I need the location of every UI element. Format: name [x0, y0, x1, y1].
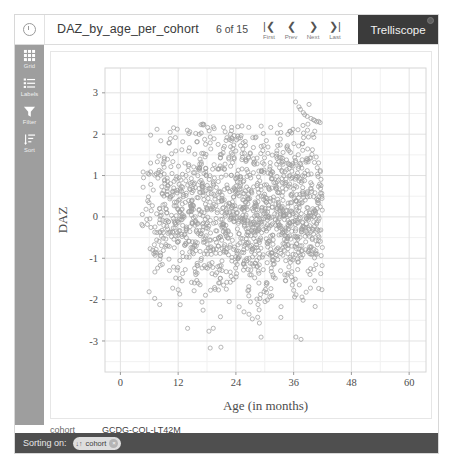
sidebar: Grid Labels Filter [15, 45, 44, 425]
svg-text:36: 36 [288, 377, 299, 388]
labels-icon [23, 77, 36, 90]
svg-text:48: 48 [346, 377, 357, 388]
sidebar-label-sort: Sort [24, 147, 35, 154]
svg-text:0: 0 [118, 377, 123, 388]
prev-page-button[interactable]: ❮ Prev [280, 20, 302, 41]
filter-icon [23, 105, 36, 118]
svg-text:12: 12 [173, 377, 184, 388]
trelliscope-brand-button[interactable]: Trelliscope [358, 15, 438, 44]
sort-direction-icon: ↓↑ [76, 440, 83, 447]
prev-page-label: Prev [285, 33, 298, 41]
svg-text:Age (in months): Age (in months) [223, 398, 308, 413]
svg-text:-1: -1 [89, 253, 98, 264]
svg-text:-3: -3 [89, 336, 98, 347]
sidebar-item-filter[interactable]: Filter [15, 101, 44, 129]
sidebar-item-sort[interactable]: Sort [15, 129, 44, 157]
header-bar: DAZ_by_age_per_cohort 6 of 15 |❮ First ❮… [15, 15, 438, 45]
sidebar-item-grid[interactable]: Grid [15, 45, 44, 73]
next-page-label: Next [307, 33, 320, 41]
next-page-button[interactable]: ❯ Next [302, 20, 324, 41]
svg-text:60: 60 [404, 377, 415, 388]
sidebar-label-labels: Labels [21, 91, 39, 98]
sort-chip-cohort[interactable]: ↓↑ cohort × [73, 437, 122, 450]
trelliscope-window: DAZ_by_age_per_cohort 6 of 15 |❮ First ❮… [14, 14, 439, 454]
last-page-button[interactable]: ❯| Last [324, 20, 346, 41]
remove-sort-icon[interactable]: × [109, 439, 118, 448]
sidebar-item-labels[interactable]: Labels [15, 73, 44, 101]
svg-text:24: 24 [231, 377, 242, 388]
page-count-label: 6 of 15 [216, 23, 248, 35]
last-page-label: Last [329, 33, 341, 41]
last-page-icon: ❯| [329, 20, 341, 32]
footer-bar: Sorting on: ↓↑ cohort × [15, 433, 438, 453]
grid-icon [23, 49, 36, 62]
brand-help-dot[interactable] [427, 17, 434, 24]
app-root: DAZ_by_age_per_cohort 6 of 15 |❮ First ❮… [0, 0, 453, 468]
display-title: DAZ_by_age_per_cohort [57, 22, 199, 36]
sidebar-label-grid: Grid [24, 63, 35, 70]
panel-card[interactable]: 01224364860-3-2-10123Age (in months)DAZ [50, 51, 432, 419]
first-page-button[interactable]: |❮ First [258, 20, 280, 41]
svg-text:-2: -2 [89, 294, 98, 305]
svg-text:DAZ: DAZ [55, 207, 70, 234]
svg-text:1: 1 [93, 170, 98, 181]
first-page-label: First [263, 33, 275, 41]
sorting-on-label: Sorting on: [23, 438, 67, 448]
sort-icon [23, 133, 36, 146]
first-page-icon: |❮ [263, 20, 275, 32]
prev-page-icon: ❮ [287, 20, 296, 32]
svg-text:3: 3 [93, 87, 98, 98]
info-button[interactable] [15, 15, 45, 44]
next-page-icon: ❯ [309, 20, 318, 32]
svg-text:0: 0 [93, 211, 98, 222]
sort-chip-label: cohort [86, 439, 107, 448]
pager: 6 of 15 |❮ First ❮ Prev ❯ Next ❯| Last [216, 20, 346, 44]
scatter-plot: 01224364860-3-2-10123Age (in months)DAZ [51, 52, 431, 418]
svg-text:2: 2 [93, 129, 98, 140]
trelliscope-brand-label: Trelliscope [370, 24, 425, 36]
info-icon [23, 23, 36, 36]
sidebar-label-filter: Filter [23, 119, 36, 126]
